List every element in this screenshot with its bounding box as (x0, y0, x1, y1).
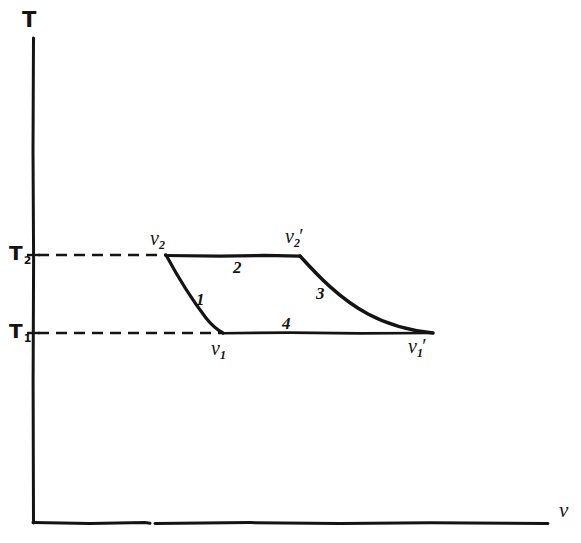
thermodynamic-diagram (0, 0, 581, 543)
prime-mark-v2: ′ (298, 225, 302, 247)
temp-label-t1: T1 (9, 321, 30, 341)
point-symbol-v2-prime: v (285, 225, 294, 247)
process-segment-4 (223, 333, 433, 334)
temp-symbol-t1: T (9, 319, 23, 343)
point-label-v2: v2 (150, 228, 165, 248)
point-label-v2-prime: v2′ (285, 226, 304, 246)
segment-label-3: 3 (316, 285, 325, 302)
temp-subscript-t2: 2 (24, 254, 32, 267)
point-symbol-v1: v (211, 337, 220, 359)
process-segment-2 (166, 255, 300, 256)
point-label-v1-prime: v1′ (408, 336, 427, 356)
point-subscript-v1: 1 (220, 348, 226, 362)
x-axis-line (33, 522, 150, 523)
segment-label-1: 1 (196, 291, 205, 308)
y-axis-label: T (22, 10, 36, 31)
x-axis-label: v (559, 500, 568, 521)
process-segment-1 (166, 255, 223, 333)
prime-mark-v1: ′ (421, 335, 425, 357)
temp-symbol-t2: T (9, 241, 23, 265)
temp-label-t2: T2 (9, 243, 30, 263)
segment-label-4: 4 (282, 315, 291, 332)
x-axis-line-continued (155, 523, 548, 524)
y-axis-line (33, 38, 34, 523)
figure-canvas: T v T2 T1 v2 v2′ v1 v1′ 1 2 3 4 (0, 0, 581, 543)
point-subscript-v2: 2 (159, 238, 165, 252)
point-symbol-v2: v (150, 227, 159, 249)
point-label-v1: v1 (211, 338, 226, 358)
point-symbol-v1-prime: v (408, 335, 417, 357)
temp-subscript-t1: 1 (24, 332, 32, 345)
segment-label-2: 2 (233, 259, 242, 276)
